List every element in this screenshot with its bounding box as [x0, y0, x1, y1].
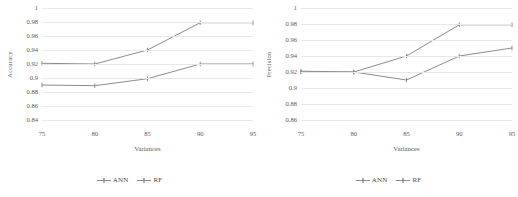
y-axis-tick: 0.9 — [289, 85, 297, 92]
y-axis-tick: 0.94 — [285, 53, 297, 60]
x-axis-tick: 90 — [456, 130, 463, 137]
y-axis-tick: 0.88 — [26, 89, 38, 96]
x-axis-tick: 95 — [509, 130, 516, 137]
legend-label: ANN — [372, 176, 388, 184]
gridline — [42, 8, 253, 9]
legend-label: RF — [153, 176, 162, 184]
x-axis-tick: 95 — [250, 130, 257, 137]
gridline — [42, 22, 253, 23]
legend-marker-icon — [137, 177, 151, 184]
gridline — [301, 88, 512, 89]
chart-panel-precision: Precision 10.980.960.940.920.90.880.86 7… — [259, 0, 518, 197]
legend-item-rf[interactable]: RF — [137, 176, 162, 184]
legend-item-ann[interactable]: ANN — [97, 176, 129, 184]
gridline — [301, 120, 512, 121]
series-line-rf — [42, 23, 253, 64]
y-axis-tick: 0.88 — [285, 101, 297, 108]
gridline — [42, 106, 253, 107]
y-axis-tick: 0.94 — [26, 47, 38, 54]
gridline — [301, 72, 512, 73]
gridline — [42, 50, 253, 51]
y-axis-tick: 0.86 — [26, 103, 38, 110]
y-axis-title-label: Accuracy — [6, 51, 13, 78]
x-axis-tick-labels: 7580859095 — [42, 130, 253, 142]
y-axis-tick: 0.98 — [26, 19, 38, 26]
x-axis-tick: 75 — [298, 130, 305, 137]
x-axis-tick: 90 — [197, 130, 204, 137]
legend-accuracy: ANNRF — [0, 176, 259, 184]
x-axis-tick: 80 — [91, 130, 98, 137]
gridline — [301, 8, 512, 9]
x-axis-tick: 85 — [144, 130, 151, 137]
y-axis-tick: 1 — [294, 5, 297, 12]
series-line-ann — [42, 64, 253, 86]
y-axis-tick: 0.86 — [285, 117, 297, 124]
legend-item-ann[interactable]: ANN — [356, 176, 388, 184]
y-axis-tick: 0.96 — [26, 33, 38, 40]
x-axis-tick: 75 — [39, 130, 46, 137]
plot-area-precision — [301, 8, 512, 120]
chart-panel-accuracy: Accuracy 10.980.960.940.920.90.880.860.8… — [0, 0, 259, 197]
y-axis-tick: 0.9 — [30, 75, 38, 82]
gridline — [42, 36, 253, 37]
gridline — [42, 120, 253, 121]
gridline — [301, 40, 512, 41]
legend-marker-icon — [97, 177, 111, 184]
y-axis-tick: 0.98 — [285, 21, 297, 28]
x-axis-title: Variances — [301, 145, 512, 152]
figure-two-panel-line-charts: Accuracy 10.980.960.940.920.90.880.860.8… — [0, 0, 518, 197]
series-line-ann — [301, 48, 512, 80]
gridline — [42, 92, 253, 93]
x-axis-title: Variances — [42, 145, 253, 152]
y-axis-tick: 0.96 — [285, 37, 297, 44]
gridline — [42, 64, 253, 65]
y-axis-title-label: Precision — [265, 51, 272, 77]
y-axis-tick: 0.92 — [285, 69, 297, 76]
y-axis-tick: 1 — [35, 5, 38, 12]
legend-item-rf[interactable]: RF — [396, 176, 421, 184]
legend-label: ANN — [113, 176, 129, 184]
y-axis-tick: 0.92 — [26, 61, 38, 68]
legend-precision: ANNRF — [259, 176, 518, 184]
legend-label: RF — [412, 176, 421, 184]
plot-area-accuracy — [42, 8, 253, 120]
gridline — [301, 24, 512, 25]
legend-marker-icon — [356, 177, 370, 184]
x-axis-tick: 80 — [350, 130, 357, 137]
y-axis-tick: 0.84 — [26, 117, 38, 124]
y-axis-tick-labels: 10.980.960.940.920.90.880.860.84 — [14, 0, 40, 128]
y-axis-tick-labels: 10.980.960.940.920.90.880.86 — [273, 0, 299, 128]
gridline — [301, 56, 512, 57]
x-axis-tick-labels: 7580859095 — [301, 130, 512, 142]
x-axis-tick: 85 — [403, 130, 410, 137]
gridline — [301, 104, 512, 105]
series-line-rf — [301, 25, 512, 72]
gridline — [42, 78, 253, 79]
legend-marker-icon — [396, 177, 410, 184]
